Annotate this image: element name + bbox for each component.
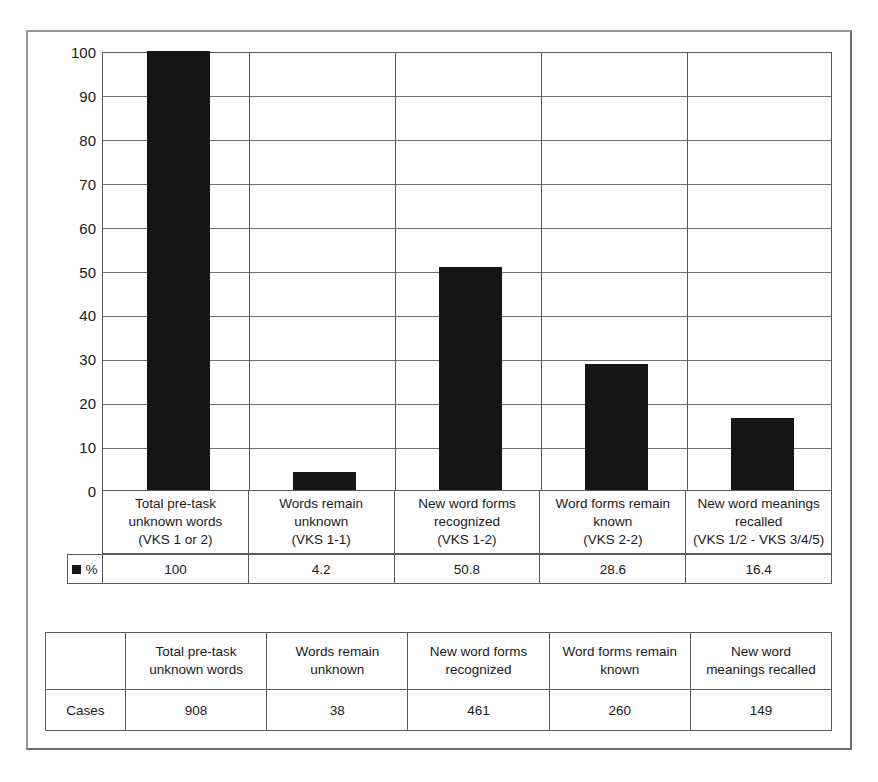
bar-1[interactable] (293, 472, 356, 490)
category-cell-4: New word meaningsrecalled(VKS 1/2 - VKS … (686, 491, 831, 553)
y-tick-label-100: 100 (50, 45, 96, 60)
cases-header-cell-2: New word formsrecognized (408, 633, 549, 689)
cases-row-label: Cases (46, 690, 126, 730)
bar-3[interactable] (585, 364, 648, 490)
y-tick-label-40: 40 (50, 308, 96, 323)
chart-plot-block (102, 52, 832, 491)
y-tick-label-0: 0 (50, 484, 96, 499)
category-cell-0-line-2: unknown words (128, 513, 222, 531)
category-cell-4-line-3: (VKS 1/2 - VKS 3/4/5) (693, 531, 824, 549)
category-cell-3: Word forms remainknown(VKS 2-2) (540, 491, 686, 553)
cases-table-data-row: Cases 90838461260149 (46, 690, 831, 730)
gridline-70 (103, 184, 831, 185)
legend-label: % (85, 562, 97, 577)
cases-header-cell-0: Total pre-taskunknown words (126, 633, 267, 689)
category-cell-1-line-3: (VKS 1-1) (292, 531, 351, 549)
plot-area (102, 52, 832, 491)
category-cell-2-line-1: New word forms (418, 495, 516, 513)
category-cell-4-line-1: New word meanings (697, 495, 819, 513)
percent-value-3: 28.6 (540, 555, 686, 583)
category-label-table: Total pre-taskunknown words(VKS 1 or 2)W… (102, 491, 832, 554)
category-cell-0-line-1: Total pre-task (135, 495, 216, 513)
gridline-60 (103, 228, 831, 229)
cases-header-cell-0-line-1: Total pre-task (156, 643, 237, 661)
category-cell-3-line-1: Word forms remain (556, 495, 671, 513)
cases-header-cell-0-line-2: unknown words (149, 661, 243, 679)
cases-header-cell-1: Words remainunknown (267, 633, 408, 689)
cases-table-header-row: Total pre-taskunknown wordsWords remainu… (46, 633, 831, 690)
percent-value-2: 50.8 (395, 555, 541, 583)
bar-0[interactable] (147, 51, 210, 490)
column-divider-4 (687, 53, 688, 490)
category-cell-3-line-2: known (593, 513, 632, 531)
legend-cell: % (68, 555, 103, 583)
percent-value-0: 100 (103, 555, 249, 583)
category-cell-1: Words remainunknown(VKS 1-1) (249, 491, 395, 553)
gridline-90 (103, 96, 831, 97)
category-cell-3-line-3: (VKS 2-2) (583, 531, 642, 549)
category-cell-4-line-2: recalled (735, 513, 782, 531)
category-cell-0-line-3: (VKS 1 or 2) (138, 531, 212, 549)
cases-table-corner-cell (46, 633, 126, 689)
y-tick-label-60: 60 (50, 220, 96, 235)
category-cell-2-line-2: recognized (434, 513, 500, 531)
y-tick-label-80: 80 (50, 132, 96, 147)
cases-header-cell-2-line-2: recognized (445, 661, 511, 679)
cases-header-cell-2-line-1: New word forms (430, 643, 528, 661)
category-cell-2: New word formsrecognized(VKS 1-2) (395, 491, 541, 553)
cases-header-cell-4-line-2: meanings recalled (706, 661, 816, 679)
legend-swatch-icon (72, 565, 81, 574)
category-cell-1-line-2: unknown (294, 513, 348, 531)
cases-header-cell-1-line-2: unknown (310, 661, 364, 679)
bar-2[interactable] (439, 267, 502, 490)
y-tick-label-50: 50 (50, 264, 96, 279)
cases-value-0: 908 (126, 690, 267, 730)
cases-header-cell-4: New wordmeanings recalled (691, 633, 831, 689)
y-tick-label-70: 70 (50, 176, 96, 191)
y-tick-label-90: 90 (50, 88, 96, 103)
y-tick-label-10: 10 (50, 440, 96, 455)
cases-header-cell-3-line-1: Word forms remain (562, 643, 677, 661)
category-cell-1-line-1: Words remain (279, 495, 363, 513)
cases-header-cell-3: Word forms remainknown (550, 633, 691, 689)
category-cell-0: Total pre-taskunknown words(VKS 1 or 2) (103, 491, 249, 553)
cases-header-cell-3-line-2: known (600, 661, 639, 679)
category-cell-2-line-3: (VKS 1-2) (437, 531, 496, 549)
y-tick-label-30: 30 (50, 352, 96, 367)
cases-value-1: 38 (267, 690, 408, 730)
cases-header-cell-4-line-1: New word (731, 643, 791, 661)
column-divider-1 (249, 53, 250, 490)
percent-value-4: 16.4 (686, 555, 831, 583)
cases-table: Total pre-taskunknown wordsWords remainu… (45, 632, 832, 731)
cases-value-3: 260 (550, 690, 691, 730)
gridline-80 (103, 140, 831, 141)
column-divider-3 (541, 53, 542, 490)
cases-value-2: 461 (408, 690, 549, 730)
y-tick-label-20: 20 (50, 396, 96, 411)
column-divider-2 (395, 53, 396, 490)
percent-legend-row: % 1004.250.828.616.4 (67, 554, 832, 584)
percent-value-1: 4.2 (249, 555, 395, 583)
y-axis: 1009080706050403020100 (44, 52, 96, 491)
cases-header-cell-1-line-1: Words remain (295, 643, 379, 661)
cases-value-4: 149 (691, 690, 831, 730)
bar-4[interactable] (731, 418, 794, 490)
